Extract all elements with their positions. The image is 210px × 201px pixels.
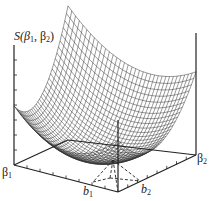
beta1-axis-label: β1 (2, 165, 12, 180)
b1-min-label: b1 (83, 184, 93, 199)
surface-plot: S(β1, β2) β1 β2 b1 b2 (0, 0, 210, 201)
beta2-axis-label: β2 (197, 151, 207, 166)
b2-min-label: b2 (141, 182, 151, 197)
base-edge-back-left (14, 140, 68, 165)
z-axis-label: S(β1, β2) (14, 29, 54, 44)
